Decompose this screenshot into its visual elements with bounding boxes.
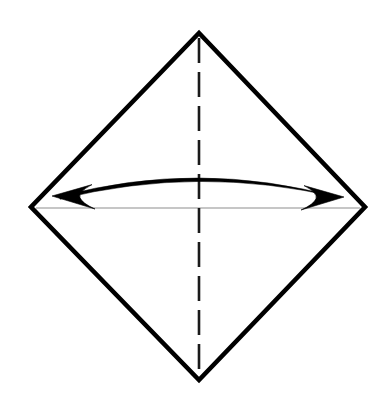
- diamond-fold-diagram: [0, 0, 385, 397]
- figure-canvas: Square rotated 45 degrees with vertical …: [0, 0, 385, 397]
